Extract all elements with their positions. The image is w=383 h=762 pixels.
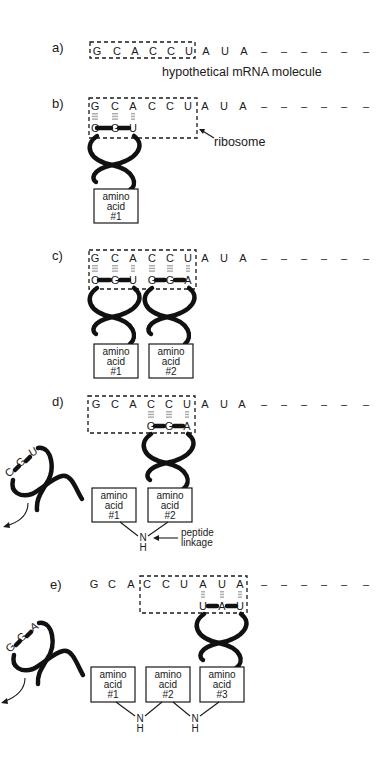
amino-acid-1: amino acid #1 — [91, 667, 135, 702]
base: C — [162, 578, 170, 590]
base: – — [363, 398, 370, 410]
base: A — [239, 100, 247, 112]
amino-acid-text: #2 — [162, 689, 174, 700]
base: G — [148, 274, 157, 286]
base: A — [199, 578, 207, 590]
ribosome-box — [89, 250, 196, 289]
base: C — [91, 122, 99, 134]
amino-acid-text: #2 — [165, 366, 177, 377]
base: – — [301, 252, 308, 264]
base: – — [321, 578, 328, 590]
base: U — [184, 252, 192, 264]
base: C — [108, 578, 116, 590]
base: C — [143, 578, 151, 590]
hydrogen-label: H — [139, 542, 146, 553]
panel-e: e) G C A C C U A U A – – – – – – U A — [1, 576, 370, 734]
peptide-linkage-label: linkage — [181, 537, 213, 548]
base: C — [148, 100, 156, 112]
base: G — [3, 640, 18, 655]
base: – — [341, 252, 348, 264]
base: – — [261, 578, 268, 590]
base: U — [236, 600, 244, 612]
base: – — [281, 252, 288, 264]
base: C — [166, 100, 174, 112]
base: – — [363, 100, 370, 112]
arrow-icon — [1, 698, 8, 704]
amino-acid-text: #1 — [108, 510, 120, 521]
released-trna: C G U — [2, 444, 82, 528]
base: C — [148, 252, 156, 264]
hydrogen-bonds — [93, 113, 134, 121]
mrna-sequence: G C A C C U A U A – – – – – – — [92, 398, 370, 410]
base: – — [321, 45, 328, 57]
ribosome-pointer: ribosome — [199, 129, 265, 149]
base: U — [220, 398, 228, 410]
amino-acid-2: amino acid #2 — [148, 488, 192, 522]
base: U — [184, 100, 192, 112]
trna-2: G G A — [144, 420, 194, 489]
base: U — [220, 252, 228, 264]
base: – — [341, 578, 348, 590]
trna-3: U A U — [197, 600, 247, 668]
base: – — [281, 578, 288, 590]
trna-1: C G U — [90, 122, 140, 190]
base: – — [363, 45, 370, 57]
hydrogen-label: H — [191, 723, 198, 734]
amino-acid-2: amino acid #2 — [149, 344, 193, 378]
base: C — [111, 100, 119, 112]
base: C — [167, 45, 175, 57]
hydrogen-bonds — [149, 411, 188, 419]
base: U — [199, 600, 207, 612]
mrna-sequence: G C A C C U A U A – – – – – – — [90, 578, 370, 590]
base: U — [220, 100, 228, 112]
codon-box — [90, 42, 195, 58]
base: – — [363, 252, 370, 264]
base: A — [238, 398, 246, 410]
mrna-sequence: G C A C C U A U A – – – – – – — [93, 45, 370, 57]
base: G — [90, 578, 99, 590]
base: C — [149, 45, 157, 57]
base: – — [281, 45, 288, 57]
base: – — [321, 398, 328, 410]
base: – — [341, 45, 348, 57]
mrna-sequence: G C A C C U A U A – – – – – – — [91, 252, 370, 264]
base: A — [201, 100, 209, 112]
trna-2: G G A — [145, 274, 195, 344]
amino-acid-text: #3 — [216, 689, 228, 700]
amino-acid-3: amino acid #3 — [200, 667, 244, 702]
base: A — [129, 100, 137, 112]
base: – — [281, 100, 288, 112]
base: U — [221, 45, 229, 57]
base: G — [92, 398, 101, 410]
base: – — [261, 252, 268, 264]
amino-acid-text: #1 — [107, 689, 119, 700]
hydrogen-bonds — [93, 265, 189, 273]
base: – — [363, 578, 370, 590]
panel-label: d) — [52, 394, 64, 409]
base: A — [218, 600, 226, 612]
base: G — [93, 45, 102, 57]
base: U — [180, 578, 188, 590]
base: G — [147, 420, 156, 432]
peptide-linkages: N H N H — [116, 702, 219, 734]
base: U — [218, 578, 226, 590]
base: C — [91, 274, 99, 286]
base: A — [184, 274, 192, 286]
peptide-linkage: N H peptide linkage — [120, 522, 214, 553]
base: G — [91, 100, 100, 112]
base: C — [113, 45, 121, 57]
panel-c: c) G C A C C U A U A – – – – – – — [52, 248, 370, 378]
panel-label: a) — [52, 40, 64, 55]
panel-a: a) G C A C C U A U A – – – – – – hypothe… — [52, 40, 370, 79]
base: C — [111, 252, 119, 264]
base: C — [2, 465, 16, 479]
base: U — [183, 398, 191, 410]
panel-label: b) — [52, 96, 64, 111]
base: – — [301, 45, 308, 57]
amino-acid-1: amino acid #1 — [92, 488, 136, 522]
amino-acid-1: amino acid #1 — [94, 189, 138, 223]
base: A — [129, 252, 137, 264]
panel-label: e) — [50, 577, 62, 592]
base: U — [129, 274, 137, 286]
released-trna: G G A — [1, 619, 83, 704]
